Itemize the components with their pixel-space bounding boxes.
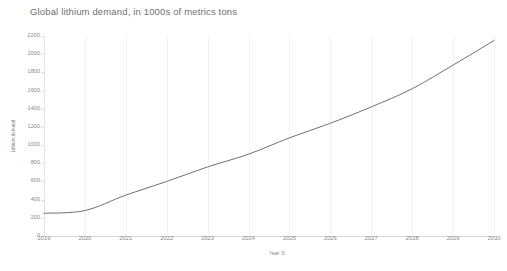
chart-title: Global lithium demand, in 1000s of metri…	[30, 6, 237, 17]
x-tick-label: 2027	[365, 236, 378, 242]
sort-arrows-icon[interactable]: ⇅	[281, 250, 285, 256]
y-tick-label: 1200	[28, 124, 40, 130]
y-tick-label: 1800	[28, 70, 40, 76]
y-tick-label: 400	[31, 197, 40, 203]
y-tick-label: 1000	[28, 142, 40, 148]
x-tick-label: 2021	[119, 236, 132, 242]
x-tick-label: 2030	[488, 236, 501, 242]
x-tick-label: 2020	[78, 236, 91, 242]
y-tick-label: 1400	[28, 106, 40, 112]
x-tick-label: 2023	[201, 236, 214, 242]
y-tick-label: 600	[31, 179, 40, 185]
y-tick-label: 1600	[28, 88, 40, 94]
y-tick-label: 2000	[28, 51, 40, 57]
x-axis-line	[44, 236, 494, 237]
y-tick-label: 2200	[28, 33, 40, 39]
x-axis-title-label: Year	[269, 250, 279, 256]
x-axis-title: Year⇅	[269, 250, 285, 256]
x-tick-label: 2026	[324, 236, 337, 242]
x-tick-label: 2022	[160, 236, 173, 242]
gridline-vertical	[494, 36, 495, 236]
x-tick-label: 2024	[242, 236, 255, 242]
x-tick-label: 2019	[38, 236, 51, 242]
x-tick-label: 2025	[283, 236, 296, 242]
x-tick-label: 2029	[447, 236, 460, 242]
y-tick-label: 200	[31, 215, 40, 221]
y-tick-label: 800	[31, 160, 40, 166]
series-line	[44, 41, 494, 214]
series-lithium-demand	[44, 36, 494, 236]
y-axis-title: Lithium demand	[11, 119, 16, 152]
plot-area: 0200400600800100012001400160018002000220…	[44, 36, 494, 236]
line-chart: Global lithium demand, in 1000s of metri…	[0, 0, 507, 271]
x-tick-label: 2028	[406, 236, 419, 242]
